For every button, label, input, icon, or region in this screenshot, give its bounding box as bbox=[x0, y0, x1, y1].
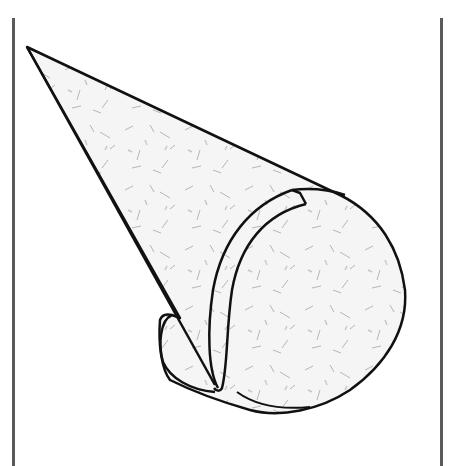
paper-cone-illustration bbox=[0, 0, 455, 466]
cone-body bbox=[27, 47, 405, 413]
